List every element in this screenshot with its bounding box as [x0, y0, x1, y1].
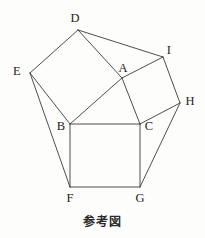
- vertex-label-c: C: [145, 120, 154, 133]
- vertex-label-d: D: [70, 12, 79, 25]
- edge-group: [30, 30, 180, 187]
- vertex-label-g: G: [135, 192, 144, 205]
- reference-figure-panel: DEAIHBCFG 参考図: [0, 0, 205, 238]
- vertex-label-b: B: [57, 120, 66, 133]
- edge-square-edab-ab: [70, 78, 122, 124]
- edge-connector-hg: [140, 103, 180, 187]
- edge-square-edab-ed: [30, 30, 78, 73]
- vertex-label-h: H: [185, 95, 194, 108]
- edge-square-aihc-ca: [122, 78, 140, 124]
- vertex-label-i: I: [167, 44, 171, 57]
- edge-square-aihc-ai: [122, 57, 163, 78]
- vertex-label-a: A: [118, 62, 127, 75]
- figure-caption: 参考図: [0, 212, 205, 229]
- vertex-label-e: E: [13, 65, 21, 78]
- edge-square-aihc-ih: [163, 57, 180, 103]
- geometry-diagram: [0, 0, 205, 238]
- edge-square-edab-be: [30, 73, 70, 124]
- vertex-label-f: F: [66, 192, 73, 205]
